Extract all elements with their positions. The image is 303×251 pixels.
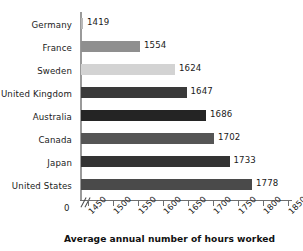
value-axis: 145015001550160016501700175018001850 (80, 200, 303, 210)
bar-value-label: 1733 (234, 155, 256, 166)
category-label: Canada (0, 129, 76, 152)
axis-origin-label: 0 (64, 203, 69, 213)
category-label: United Kingdom (0, 83, 76, 106)
bar-value-label: 1647 (191, 86, 213, 97)
bar[interactable] (81, 156, 230, 167)
category-label: France (0, 37, 76, 60)
bar-value-label: 1419 (87, 17, 109, 28)
category-label: Germany (0, 14, 76, 37)
bar-row: 1554 (80, 35, 303, 58)
bar[interactable] (81, 87, 187, 98)
bar-chart: Germany France Sweden United Kingdom Aus… (0, 0, 303, 251)
bar[interactable] (81, 18, 83, 29)
bar-row: 1778 (80, 173, 303, 196)
bar-row: 1686 (80, 104, 303, 127)
bar[interactable] (81, 133, 214, 144)
category-label: Sweden (0, 60, 76, 83)
bar-row: 1702 (80, 127, 303, 150)
bar[interactable] (81, 110, 206, 121)
bars-container: 14191554162416471686170217331778 (80, 12, 303, 196)
bar-row: 1419 (80, 12, 303, 35)
category-axis-labels: Germany France Sweden United Kingdom Aus… (0, 14, 76, 198)
bar[interactable] (81, 64, 175, 75)
bar-row: 1624 (80, 58, 303, 81)
bar-value-label: 1686 (210, 109, 232, 120)
plot-area: 14191554162416471686170217331778 (80, 12, 303, 200)
bar[interactable] (81, 179, 252, 190)
bar-value-label: 1554 (144, 40, 166, 51)
bar-row: 1733 (80, 150, 303, 173)
bar[interactable] (81, 41, 140, 52)
category-label: Japan (0, 152, 76, 175)
category-label: United States (0, 175, 76, 198)
value-axis-line-horizontal (80, 200, 292, 201)
axis-title: Average annual number of hours worked (0, 234, 303, 244)
bar-value-label: 1702 (218, 132, 240, 143)
bar-value-label: 1624 (179, 63, 201, 74)
bar-row: 1647 (80, 81, 303, 104)
category-label: Australia (0, 106, 76, 129)
bar-value-label: 1778 (256, 178, 278, 189)
